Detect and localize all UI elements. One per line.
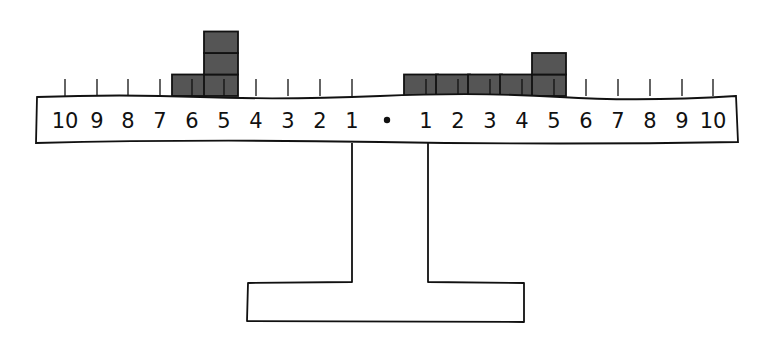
weight-block	[204, 75, 238, 97]
weight-block	[500, 75, 534, 97]
right-label-1: 1	[419, 109, 432, 133]
weight-block	[404, 75, 438, 97]
weight-block	[172, 75, 206, 97]
left-label-5: 5	[217, 109, 230, 133]
right-label-10: 10	[700, 109, 727, 133]
tick-marks	[65, 79, 713, 96]
left-label-7: 7	[153, 109, 166, 133]
left-weight-blocks	[172, 32, 238, 97]
right-label-2: 2	[451, 109, 464, 133]
stand-outline	[247, 143, 524, 322]
left-label-8: 8	[121, 109, 134, 133]
right-label-6: 6	[579, 109, 592, 133]
weight-block	[532, 75, 566, 97]
left-label-3: 3	[281, 109, 294, 133]
left-label-10: 10	[52, 109, 79, 133]
right-label-8: 8	[643, 109, 656, 133]
weight-block	[532, 53, 566, 75]
right-label-7: 7	[611, 109, 624, 133]
right-label-4: 4	[515, 109, 528, 133]
weight-block	[204, 53, 238, 75]
balance-scale: 10 9 8 7 6 5 4 3 2 1 1 2 3 4 5 6 7 8 9 1…	[0, 0, 770, 341]
weight-block	[436, 75, 470, 97]
stand	[247, 143, 524, 322]
left-label-6: 6	[185, 109, 198, 133]
right-label-3: 3	[483, 109, 496, 133]
right-label-9: 9	[675, 109, 688, 133]
fulcrum-center-dot	[384, 117, 390, 123]
left-label-9: 9	[90, 109, 103, 133]
right-label-5: 5	[547, 109, 560, 133]
weight-block	[468, 75, 502, 97]
right-weight-blocks	[404, 53, 566, 96]
left-label-2: 2	[313, 109, 326, 133]
left-label-4: 4	[249, 109, 262, 133]
weight-block	[204, 32, 238, 54]
left-label-1: 1	[345, 109, 358, 133]
